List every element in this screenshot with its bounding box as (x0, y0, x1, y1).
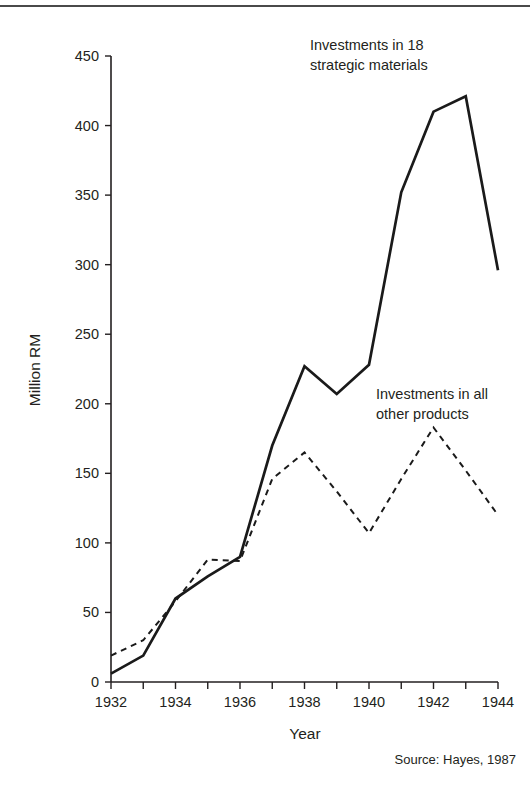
y-tick-label: 0 (91, 674, 99, 690)
x-tick-label: 1934 (159, 694, 191, 710)
series-line-other-products (111, 427, 498, 655)
y-tick-label: 450 (75, 48, 99, 64)
x-tick-label: 1942 (417, 694, 449, 710)
x-tick-label: 1932 (95, 694, 127, 710)
y-axis-tick-labels: 050100150200250300350400450 (75, 48, 99, 690)
x-axis-title: Year (289, 725, 320, 742)
y-axis-title: Million RM (26, 334, 43, 406)
y-tick-label: 300 (75, 257, 99, 273)
x-axis-tick-labels: 1932193419361938194019421944 (95, 694, 514, 710)
chart-canvas: 050100150200250300350400450 193219341936… (0, 0, 530, 794)
x-tick-label: 1936 (224, 694, 256, 710)
x-axis-ticks (111, 682, 498, 689)
annotation-strategic-materials: Investments in 18 strategic materials (310, 36, 428, 75)
x-tick-label: 1944 (482, 694, 514, 710)
x-tick-label: 1940 (353, 694, 385, 710)
y-axis-ticks (105, 56, 111, 682)
y-tick-label: 50 (83, 604, 99, 620)
source-citation: Source: Hayes, 1987 (0, 752, 516, 767)
y-tick-label: 150 (75, 465, 99, 481)
y-tick-label: 400 (75, 118, 99, 134)
y-tick-label: 200 (75, 396, 99, 412)
x-tick-label: 1938 (288, 694, 320, 710)
y-tick-label: 100 (75, 535, 99, 551)
y-tick-label: 350 (75, 187, 99, 203)
y-tick-label: 250 (75, 326, 99, 342)
annotation-other-products: Investments in all other products (376, 385, 488, 424)
chart-page: 050100150200250300350400450 193219341936… (0, 0, 530, 794)
